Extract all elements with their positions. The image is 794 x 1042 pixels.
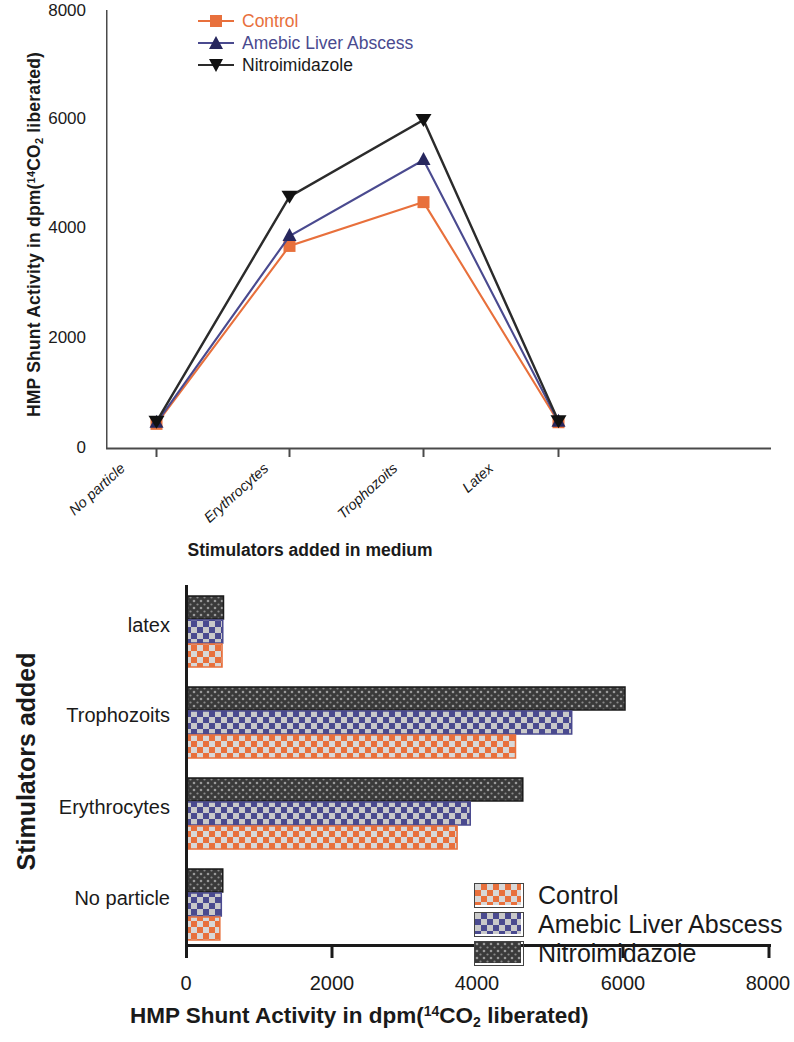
bar-chart-y-axis-title: Stimulators added bbox=[12, 612, 41, 912]
line-series-group bbox=[149, 114, 567, 430]
bar-legend-item-control[interactable]: Control bbox=[474, 881, 783, 910]
bar-legend-label-amebic-liver-abscess: Amebic Liver Abscess bbox=[538, 910, 783, 939]
legend-item-control[interactable]: Control bbox=[196, 10, 413, 32]
bar-xtick-6000: 6000 bbox=[578, 973, 668, 993]
bar-x-title-superscript: 14 bbox=[424, 1003, 440, 1019]
line-xtick-trophozoits: Trophozoits bbox=[334, 460, 400, 522]
bar-cat-label-no-particle: No particle bbox=[0, 888, 170, 908]
bar-amebic-liver-abscess-no-particle bbox=[187, 893, 221, 916]
bar-legend-label-nitroimidazole: Nitroimidazole bbox=[538, 939, 696, 968]
line-series-control bbox=[157, 202, 559, 424]
line-ytick-8000: 8000 bbox=[16, 2, 86, 19]
bar-xtick-8000: 8000 bbox=[723, 973, 794, 993]
bar-cat-label-erythrocytes: Erythrocytes bbox=[0, 797, 170, 817]
bar-plot-area: Control Amebic Liver Abscess Nitroimidaz… bbox=[185, 585, 771, 960]
bar-control-trophozoits bbox=[187, 735, 516, 758]
bar-legend-key-control-swatch-icon bbox=[474, 883, 524, 908]
bar-x-title-suffix: liberated) bbox=[481, 1003, 589, 1028]
y-axis-title-mid: CO bbox=[24, 144, 44, 171]
y-axis-title-superscript: 14 bbox=[25, 171, 37, 184]
bar-legend-item-nitroimidazole[interactable]: Nitroimidazole bbox=[474, 939, 783, 968]
bar-legend-label-control: Control bbox=[538, 881, 619, 910]
legend-item-amebic-liver-abscess[interactable]: Amebic Liver Abscess bbox=[196, 32, 413, 54]
bar-legend-key-ala-swatch-icon bbox=[474, 912, 524, 937]
legend-label-nitroimidazole: Nitroimidazole bbox=[242, 55, 353, 76]
line-point-nitroimidazole-trophozoits bbox=[416, 114, 432, 127]
line-chart-panel: HMP Shunt Activity in dpm(14CO2 liberate… bbox=[0, 0, 771, 560]
legend-key-ala-triangle-up-icon bbox=[196, 33, 236, 53]
bar-control-latex bbox=[187, 644, 222, 667]
bar-x-title-prefix: HMP Shunt Activity in dpm( bbox=[130, 1003, 424, 1028]
legend-item-nitroimidazole[interactable]: Nitroimidazole bbox=[196, 54, 413, 76]
bar-cat-label-trophozoits: Trophozoits bbox=[0, 705, 170, 725]
bar-control-no-particle bbox=[187, 917, 220, 940]
legend-label-control: Control bbox=[242, 11, 298, 32]
bar-nitroimidazole-no-particle bbox=[187, 869, 223, 892]
line-xtick-latex: Latex bbox=[459, 460, 496, 496]
legend-key-control-square-icon bbox=[196, 11, 236, 31]
bar-xtick-2000: 2000 bbox=[287, 973, 377, 993]
line-ytick-2000: 2000 bbox=[16, 329, 86, 346]
bar-xtick-4000: 4000 bbox=[432, 973, 522, 993]
line-point-control-trophozoits bbox=[418, 196, 430, 208]
line-point-amebic-liver-abscess-trophozoits bbox=[417, 152, 431, 165]
bar-legend-item-amebic-liver-abscess[interactable]: Amebic Liver Abscess bbox=[474, 910, 783, 939]
line-ytick-6000: 6000 bbox=[16, 110, 86, 127]
line-xtick-erythrocytes: Erythrocytes bbox=[201, 460, 272, 526]
bar-x-title-subscript: 2 bbox=[473, 1014, 481, 1030]
line-chart-svg bbox=[106, 10, 771, 459]
line-series-nitroimidazole bbox=[157, 120, 559, 422]
bar-nitroimidazole-latex bbox=[187, 596, 224, 619]
bar-amebic-liver-abscess-latex bbox=[187, 620, 223, 643]
bar-chart-panel: Stimulators added latex Trophozoits Eryt… bbox=[0, 575, 771, 1042]
line-ytick-0: 0 bbox=[16, 439, 86, 456]
bar-nitroimidazole-erythrocytes bbox=[187, 778, 523, 801]
line-point-amebic-liver-abscess-erythrocytes bbox=[283, 228, 297, 241]
bar-legend-key-nitro-swatch-icon bbox=[474, 941, 524, 966]
bar-xtick-0: 0 bbox=[141, 973, 231, 993]
bar-chart-legend: Control Amebic Liver Abscess Nitroimidaz… bbox=[474, 881, 783, 968]
bar-chart-x-axis-title: HMP Shunt Activity in dpm(14CO2 liberate… bbox=[130, 1003, 790, 1029]
line-point-nitroimidazole-erythrocytes bbox=[282, 191, 298, 204]
bar-cat-label-latex: latex bbox=[0, 615, 170, 635]
bar-amebic-liver-abscess-erythrocytes bbox=[187, 802, 470, 825]
line-chart-legend: Control Amebic Liver Abscess Nitroimidaz… bbox=[196, 10, 413, 76]
line-chart-x-axis-title: Stimulators added in medium bbox=[0, 540, 620, 561]
line-ytick-4000: 4000 bbox=[16, 219, 86, 236]
bar-nitroimidazole-trophozoits bbox=[187, 687, 625, 710]
bar-amebic-liver-abscess-trophozoits bbox=[187, 711, 572, 734]
bar-x-title-mid: CO bbox=[439, 1003, 473, 1028]
legend-key-nitro-triangle-down-icon bbox=[196, 55, 236, 75]
line-xtick-no-particle: No particle bbox=[66, 460, 128, 518]
bar-control-erythrocytes bbox=[187, 826, 457, 849]
line-series-amebic-liver-abscess bbox=[157, 160, 559, 423]
legend-label-amebic-liver-abscess: Amebic Liver Abscess bbox=[242, 33, 413, 54]
y-axis-title-subscript: 2 bbox=[33, 138, 45, 144]
